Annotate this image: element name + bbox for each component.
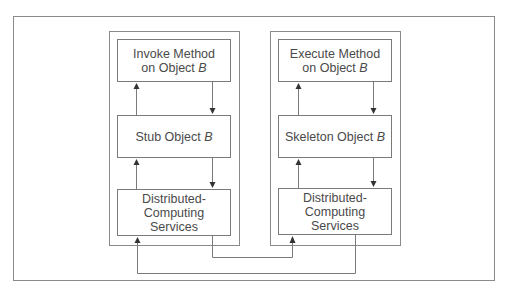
wire-client-to-server [213,236,293,258]
connector-arrows [0,0,509,303]
wire-server-to-client [138,235,356,274]
